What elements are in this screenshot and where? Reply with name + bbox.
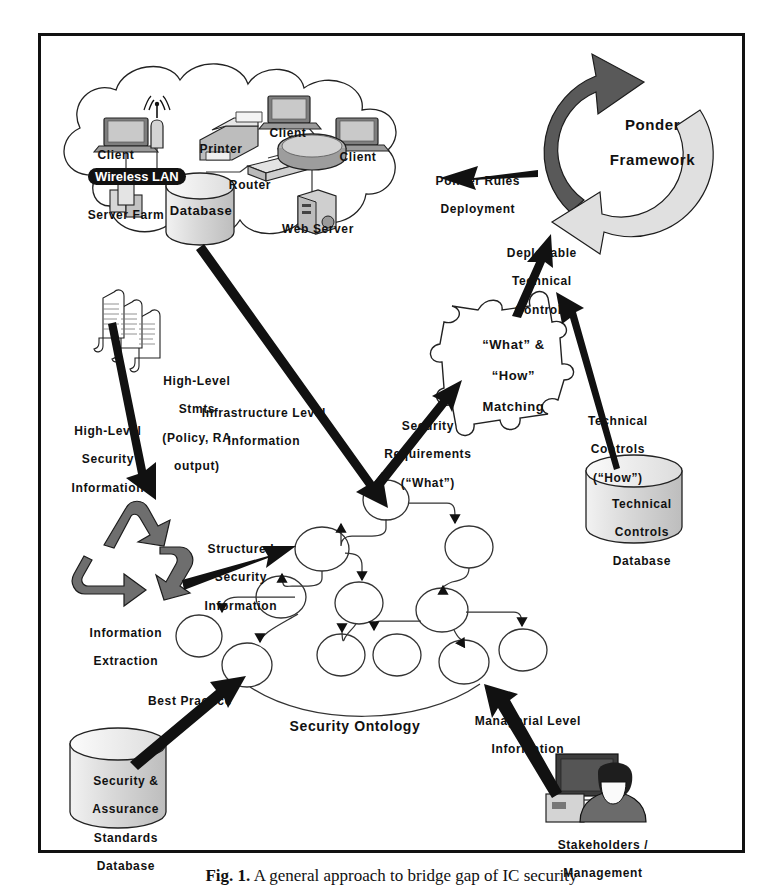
information-extraction-label: Information Extraction — [58, 612, 178, 683]
infrastructure-level-information-label: Infrastructure Level Information — [178, 392, 334, 463]
ontology-node — [445, 526, 493, 568]
caption-text: A general approach to bridge gap of IC s… — [254, 866, 578, 885]
router-label: Router — [218, 178, 282, 192]
caption-number: Fig. 1. — [205, 866, 250, 885]
ontology-node — [439, 640, 489, 684]
security-requirements-what-label: Security Requirements (“What”) — [355, 405, 485, 504]
technical-controls-database-label: Technical Controls Database — [584, 483, 684, 582]
client-left-label: Client — [86, 148, 146, 162]
web-server-label: Web Server — [276, 222, 360, 236]
figure-caption: Fig. 1. A general approach to bridge gap… — [38, 866, 745, 886]
managerial-level-information-label: Managerial Level Information — [440, 700, 600, 771]
client-right-label: Client — [328, 150, 388, 164]
ponder-title: Ponder Framework — [578, 98, 708, 186]
ontology-node — [416, 588, 468, 632]
ontology-node — [335, 582, 383, 624]
client-top-label: Client — [258, 126, 318, 140]
printer-label: Printer — [186, 142, 256, 156]
database-label: Database — [160, 203, 242, 218]
best-practice-label: Best Practice — [134, 694, 246, 708]
ontology-node — [373, 634, 421, 676]
deployable-technical-controls-label: Deployable Technical Controls — [479, 232, 589, 331]
high-level-security-information-label: High-Level Security Information — [40, 410, 160, 509]
security-ontology-label: Security Ontology — [255, 718, 455, 735]
ontology-node — [499, 629, 547, 671]
laptop-icon — [94, 118, 158, 152]
recycle-arrows-icon — [72, 501, 193, 606]
structured-security-information-label: Structured Security Information — [178, 528, 288, 627]
ontology-node — [317, 634, 365, 676]
ponder-rules-deployment-label: Ponder Rules Deployment — [395, 160, 545, 231]
figure-root: Wireless LAN Client Client Client Printe… — [0, 0, 780, 890]
wireless-lan-badge: Wireless LAN — [88, 168, 186, 185]
